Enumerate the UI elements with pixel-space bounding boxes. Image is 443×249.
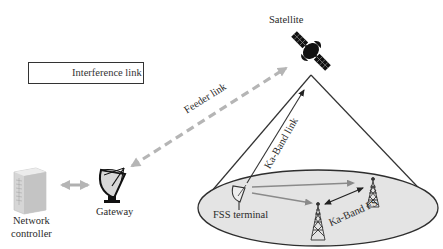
satellite-label: Satellite xyxy=(269,14,303,26)
satellite-icon xyxy=(286,25,337,76)
network-controller-label-line2: controller xyxy=(11,228,52,240)
server-tower-icon xyxy=(14,168,46,214)
network-controller-label-line1: Network xyxy=(13,215,50,227)
fss-terminal-label: FSS terminal xyxy=(213,209,268,221)
diagram-canvas: Interference link Satellite Feeder link … xyxy=(0,0,443,249)
ka-band-link-arrow xyxy=(247,90,304,183)
satellite-dish-icon xyxy=(100,168,125,203)
legend: Interference link xyxy=(28,62,144,84)
feeder-link-arrow xyxy=(132,68,286,166)
legend-label-interference: Interference link xyxy=(72,67,142,78)
gateway-label: Gateway xyxy=(96,206,133,218)
